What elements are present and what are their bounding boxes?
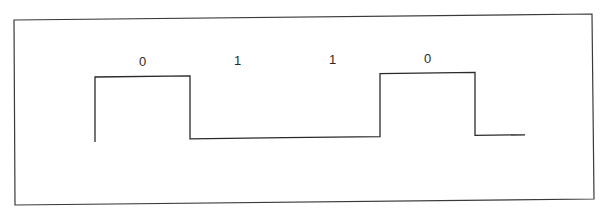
bit-label: 0: [424, 51, 431, 66]
signal-waveform: [95, 72, 525, 142]
bit-label: 0: [139, 54, 146, 69]
waveform-diagram: 0110: [0, 0, 606, 213]
bit-label: 1: [234, 53, 241, 68]
diagram-frame: [14, 14, 594, 205]
bit-label: 1: [329, 52, 336, 67]
